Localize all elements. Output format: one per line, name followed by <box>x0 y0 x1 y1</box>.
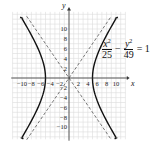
svg-text:−10: −10 <box>17 80 27 87</box>
svg-text:2: 2 <box>64 65 67 72</box>
svg-text:10: 10 <box>61 25 68 32</box>
fraction-y: y2 49 <box>124 36 134 60</box>
svg-text:−2: −2 <box>60 84 67 91</box>
svg-text:−10: −10 <box>57 123 67 130</box>
svg-text:2: 2 <box>77 80 80 87</box>
svg-text:−8: −8 <box>28 80 35 87</box>
hyperbola-chart: xy −10−8−6−4−2246810−10−8−6−4−2246810 <box>0 0 161 146</box>
svg-text:10: 10 <box>113 80 120 87</box>
fraction-x: x2 25 <box>102 36 112 60</box>
svg-text:−6: −6 <box>60 104 68 111</box>
svg-text:8: 8 <box>105 80 108 87</box>
svg-text:−6: −6 <box>37 80 45 87</box>
svg-text:−4: −4 <box>47 80 55 87</box>
svg-text:−8: −8 <box>60 114 67 121</box>
svg-text:x: x <box>130 79 135 88</box>
equation-label: x2 25 − y2 49 = 1 <box>102 36 153 60</box>
svg-text:−4: −4 <box>60 94 68 101</box>
axes: xy <box>11 1 135 140</box>
svg-text:8: 8 <box>64 35 67 42</box>
svg-text:y: y <box>61 1 66 10</box>
